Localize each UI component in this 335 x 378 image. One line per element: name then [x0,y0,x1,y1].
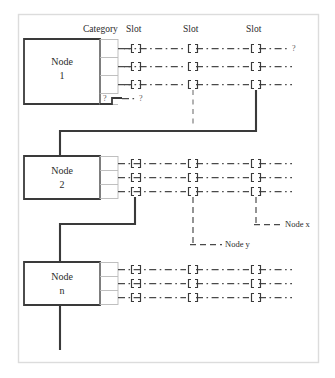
header-category: Category [83,25,118,35]
slot-3-to-node-2-connector [60,90,256,156]
node-2-label-line-2: 2 [42,180,82,190]
annotation-node-x: Node x [285,220,310,229]
header-slot-1: Slot [126,25,141,35]
node-2-to-node-n-connector [60,197,135,262]
node-n-box [24,262,100,305]
node-n-row-1 [118,266,292,274]
node-1-label-line-2: 1 [42,71,82,81]
header-slot-2: Slot [183,25,198,35]
node-2-box [24,156,100,199]
node-n-category-column [100,263,118,305]
node-2-label-line-1: Node [42,166,82,176]
node-2-row-2 [118,174,292,182]
node-1-row-1-terminator: ? [292,45,296,53]
node-1-question-stub-label: ? [139,95,143,103]
node-2-row-3 [118,188,292,196]
node-n-row-2 [118,280,292,288]
node-1-question-cell: ? [103,95,107,103]
node-n-row-3 [118,294,292,302]
figure-canvas: .thick { stroke: #3a3a3a; stroke-width: … [0,0,335,378]
node-n-label-line-2: n [42,286,82,296]
node-1-label-line-1: Node [42,57,82,67]
annotation-node-y: Node y [225,240,250,249]
node-2-row-1 [118,160,292,168]
node-2-category-column [100,157,118,199]
header-slot-3: Slot [246,25,261,35]
node-n-label-line-1: Node [42,272,82,282]
